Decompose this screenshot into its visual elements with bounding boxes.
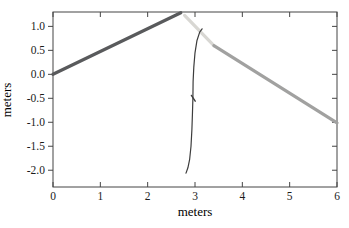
- x-tick-label: 2: [145, 190, 151, 202]
- y-tick-label: -1.5: [27, 140, 45, 152]
- series-descending-light-segment: [185, 15, 214, 45]
- y-tick-label: -1.0: [27, 116, 45, 128]
- y-tick-label: 1.0: [31, 20, 46, 32]
- x-tick-label: 6: [334, 190, 340, 202]
- x-tick-label: 4: [239, 190, 245, 202]
- plot-layer: 01234561.00.50.0-0.5-1.0-1.5-2.0: [27, 12, 340, 202]
- y-tick-label: -0.5: [27, 92, 45, 104]
- y-axis-label: meters: [0, 83, 14, 118]
- axes-frame: [53, 12, 337, 187]
- x-tick-label: 0: [50, 190, 56, 202]
- x-tick-label: 5: [287, 190, 293, 202]
- y-tick-label: 0.0: [31, 68, 46, 80]
- x-axis-label: meters: [178, 204, 213, 219]
- x-tick-label: 3: [192, 190, 198, 202]
- figure-canvas: 01234561.00.50.0-0.5-1.0-1.5-2.0 meters …: [0, 0, 349, 228]
- y-tick-label: -2.0: [27, 164, 45, 176]
- y-tick-label: 0.5: [31, 44, 46, 56]
- series-thin-vertical-curve: [186, 29, 202, 173]
- x-tick-label: 1: [97, 190, 103, 202]
- series-rising-dark-segment: [53, 13, 181, 75]
- chart-canvas: 01234561.00.50.0-0.5-1.0-1.5-2.0 meters …: [0, 0, 349, 228]
- series-descending-medium-segment: [214, 46, 337, 123]
